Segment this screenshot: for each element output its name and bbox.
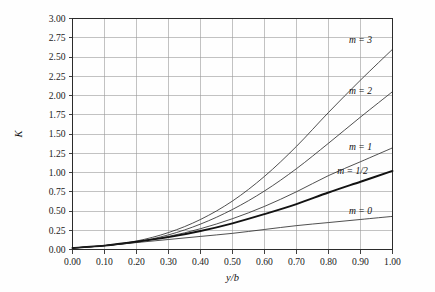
- x-axis-tick-label: 0.60: [256, 256, 273, 267]
- series-label-m-2: m = 2: [349, 85, 372, 96]
- x-axis-tick-label: 0.90: [352, 256, 369, 267]
- x-axis-tick-label: 0.80: [320, 256, 337, 267]
- x-axis-tick-label: 0.70: [288, 256, 305, 267]
- y-axis-tick-label: 1.25: [49, 148, 66, 159]
- y-axis-tick-label: 0.00: [49, 244, 66, 255]
- x-axis-tick-label: 0.00: [64, 256, 81, 267]
- x-axis-tick-label: 0.20: [128, 256, 145, 267]
- series-label-m-1-2: m = 1/2: [337, 165, 368, 176]
- series-label-m-1: m = 1: [349, 141, 372, 152]
- x-axis-tick-label: 0.40: [192, 256, 209, 267]
- series-label-text: m = 2: [349, 85, 372, 96]
- series-label-text: m = 0: [349, 205, 372, 216]
- series-label-text: m = 1: [349, 141, 372, 152]
- k-vs-y-over-b-line-chart: 0.000.250.500.751.001.251.501.752.002.25…: [0, 0, 435, 292]
- series-label-m-0: m = 0: [349, 205, 372, 216]
- y-axis-tick-label: 1.00: [49, 167, 66, 178]
- series-label-text: m = 1/2: [337, 165, 368, 176]
- y-axis-tick-label: 1.50: [49, 128, 66, 139]
- chart-figure: 0.000.250.500.751.001.251.501.752.002.25…: [0, 0, 435, 292]
- y-axis-tick-label: 0.25: [49, 225, 66, 236]
- x-axis-title: y/b: [225, 272, 239, 283]
- y-axis-tick-label: 3.00: [49, 13, 66, 24]
- y-axis-tick-label: 2.50: [49, 51, 66, 62]
- y-axis-tick-label: 0.50: [49, 205, 66, 216]
- x-axis-tick-label: 0.10: [96, 256, 113, 267]
- x-axis-tick-label: 1.00: [384, 256, 401, 267]
- y-axis-tick-label: 1.75: [49, 109, 66, 120]
- y-axis-tick-label: 2.25: [49, 71, 66, 82]
- y-axis-title: K: [13, 130, 24, 139]
- series-label-text: m = 3: [349, 34, 372, 45]
- y-axis-tick-label: 2.75: [49, 32, 66, 43]
- x-axis-tick-label: 0.30: [160, 256, 177, 267]
- y-axis-tick-label: 0.75: [49, 186, 66, 197]
- series-label-m-3: m = 3: [349, 34, 372, 45]
- x-axis-tick-label: 0.50: [224, 256, 241, 267]
- y-axis-tick-label: 2.00: [49, 90, 66, 101]
